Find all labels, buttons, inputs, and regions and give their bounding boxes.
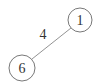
graph-diagram: 4 1 6 [0, 0, 97, 83]
node-1: 1 [68, 8, 92, 32]
node-1-label: 1 [77, 13, 84, 28]
edge-weight-label: 4 [40, 27, 47, 42]
node-6-label: 6 [19, 61, 26, 76]
node-6: 6 [9, 55, 35, 81]
edge-1-6 [32, 28, 71, 59]
